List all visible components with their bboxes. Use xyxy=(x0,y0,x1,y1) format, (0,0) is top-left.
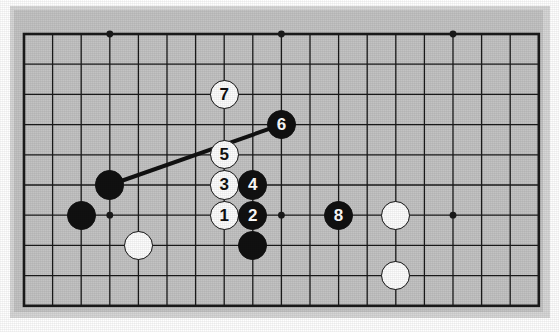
move-number-label: 4 xyxy=(248,176,257,193)
star-point-2 xyxy=(278,31,285,38)
move-stone-2[interactable]: 2 xyxy=(238,201,267,230)
move-number-label: 2 xyxy=(248,207,257,224)
move-number-label: 8 xyxy=(334,207,343,224)
move-number-label: 3 xyxy=(219,176,228,193)
white-stone-b[interactable] xyxy=(381,201,410,230)
star-point-4 xyxy=(106,212,113,219)
move-number-label: 7 xyxy=(219,86,228,103)
star-point-1 xyxy=(106,31,113,38)
move-stone-3[interactable]: 3 xyxy=(210,170,239,199)
board-grid xyxy=(0,0,559,332)
move-number-label: 5 xyxy=(219,146,228,163)
white-stone-a[interactable] xyxy=(124,231,153,260)
move-stone-8[interactable]: 8 xyxy=(324,201,353,230)
move-stone-1[interactable]: 1 xyxy=(210,201,239,230)
go-diagram-figure: 12345678 xyxy=(0,0,559,332)
move-number-label: 6 xyxy=(277,116,286,133)
grid-lines xyxy=(24,34,539,306)
move-stone-4[interactable]: 4 xyxy=(238,170,267,199)
star-point-5 xyxy=(278,212,285,219)
move-stone-7[interactable]: 7 xyxy=(210,80,239,109)
black-stone-b[interactable] xyxy=(67,201,96,230)
star-point-3 xyxy=(450,31,457,38)
move-stone-6[interactable]: 6 xyxy=(267,110,296,139)
star-point-6 xyxy=(450,212,457,219)
black-stone-a[interactable] xyxy=(95,170,124,199)
move-stone-5[interactable]: 5 xyxy=(210,140,239,169)
move-number-label: 1 xyxy=(219,207,228,224)
